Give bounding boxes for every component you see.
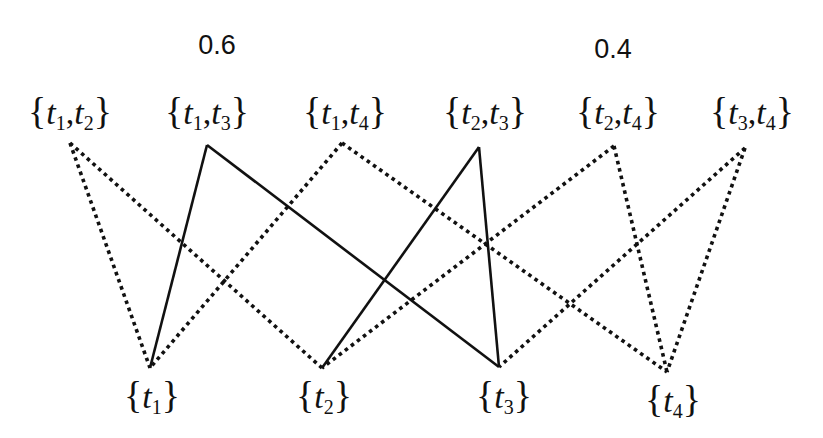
edge-t2t4-t4-dotted — [614, 146, 667, 372]
bipartite-diagram: 0.60.4 {t1,t2}{t1,t3}{t1,t4}{t2,t3}{t2,t… — [0, 0, 823, 438]
edge-t1t2-t2-dotted — [70, 143, 322, 368]
probability-label: 0.6 — [198, 30, 236, 61]
probability-label: 0.4 — [594, 34, 632, 65]
edge-t2t3-t3-solid — [479, 147, 499, 367]
pair-node-t1t3: {t1,t3} — [165, 92, 249, 133]
pair-node-t1t2: {t1,t2} — [28, 92, 112, 133]
edge-layer — [0, 0, 823, 438]
singleton-node-t1: {t1} — [124, 376, 180, 417]
edge-t3t4-t4-dotted — [667, 148, 745, 372]
edge-t2t4-t2-dotted — [322, 146, 614, 368]
pair-node-t2t4: {t2,t4} — [576, 92, 660, 133]
singleton-node-t3: {t3} — [476, 376, 532, 417]
pair-node-t1t4: {t1,t4} — [303, 92, 387, 133]
pair-node-t3t4: {t3,t4} — [710, 92, 794, 133]
pair-node-t2t3: {t2,t3} — [443, 92, 527, 133]
edge-t1t2-t1-dotted — [70, 143, 150, 368]
singleton-node-t2: {t2} — [296, 376, 352, 417]
edge-t1t4-t4-dotted — [342, 143, 667, 372]
singleton-node-t4: {t4} — [645, 380, 701, 421]
